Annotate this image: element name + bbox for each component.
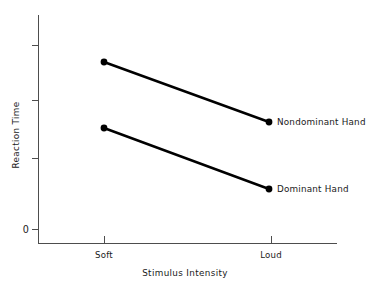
y-axis-origin-label: 0 bbox=[23, 224, 29, 235]
x-tick-label-soft: Soft bbox=[95, 250, 113, 260]
series-label-dominant-hand: Dominant Hand bbox=[277, 184, 349, 194]
x-axis-title: Stimulus Intensity bbox=[142, 268, 228, 278]
data-point-dominant-soft bbox=[101, 125, 108, 132]
y-axis-title: Reaction Time bbox=[11, 101, 21, 168]
series-line-nondominant-hand bbox=[104, 62, 269, 122]
reaction-time-line-chart: 0 Soft Loud Stimulus Intensity Reaction … bbox=[0, 0, 366, 289]
series-label-nondominant-hand: Nondominant Hand bbox=[277, 117, 366, 127]
data-point-nondominant-loud bbox=[266, 119, 273, 126]
chart-canvas: 0 Soft Loud Stimulus Intensity Reaction … bbox=[0, 0, 366, 289]
series-line-dominant-hand bbox=[104, 128, 269, 189]
data-point-nondominant-soft bbox=[101, 59, 108, 66]
x-tick-label-loud: Loud bbox=[260, 250, 282, 260]
data-point-dominant-loud bbox=[266, 186, 273, 193]
